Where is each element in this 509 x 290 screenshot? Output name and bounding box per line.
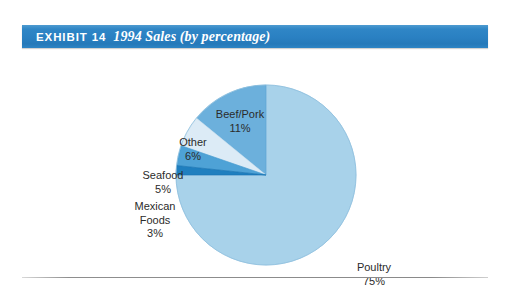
pie-label-beef-pork-name: Beef/Pork [198, 108, 282, 122]
exhibit-number-label: EXHIBIT 14 [36, 31, 106, 43]
pie-label-poultry-name: Poultry [341, 261, 407, 275]
pie-label-poultry: Poultry 75% [341, 261, 407, 288]
pie-chart: Beef/Pork 11% Other 6% Seafood 5% Mexica… [0, 48, 509, 273]
exhibit-title: 1994 Sales (by percentage) [113, 29, 270, 45]
exhibit-header-bar: EXHIBIT 14 1994 Sales (by percentage) [22, 25, 488, 48]
pie-label-beef-pork-value: 11% [198, 122, 282, 136]
pie-chart-svg [0, 48, 509, 273]
pie-label-mexican-foods-name-line2: Foods [120, 214, 190, 228]
pie-label-other: Other 6% [162, 136, 224, 163]
pie-label-other-value: 6% [162, 150, 224, 164]
pie-label-seafood-value: 5% [128, 183, 198, 197]
pie-label-mexican-foods-value: 3% [120, 227, 190, 241]
pie-label-seafood-name: Seafood [128, 169, 198, 183]
pie-label-beef-pork: Beef/Pork 11% [198, 108, 282, 135]
footer-divider [22, 277, 488, 278]
pie-label-mexican-foods-name-line1: Mexican [120, 200, 190, 214]
pie-label-other-name: Other [162, 136, 224, 150]
pie-label-mexican-foods: Mexican Foods 3% [120, 200, 190, 241]
pie-label-seafood: Seafood 5% [128, 169, 198, 196]
